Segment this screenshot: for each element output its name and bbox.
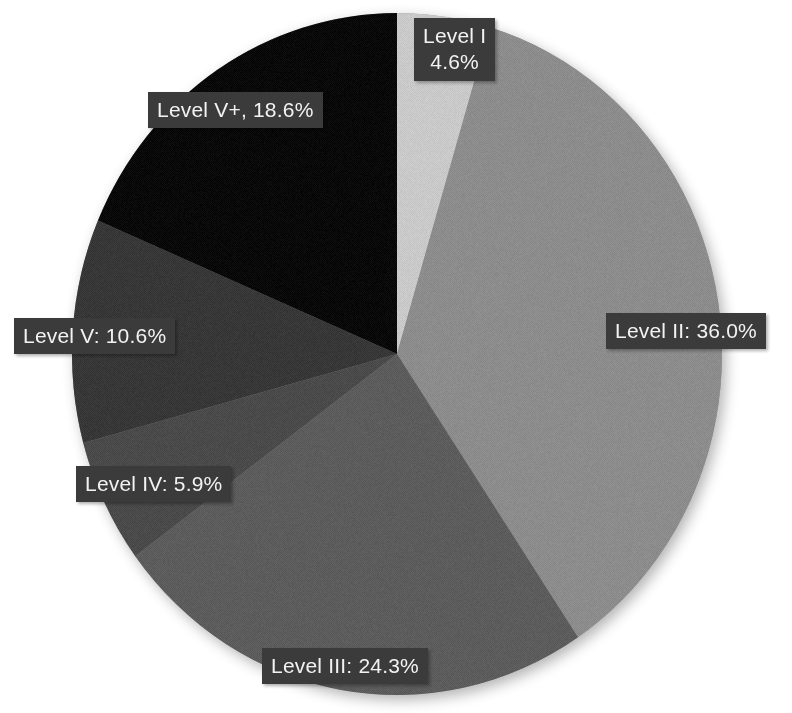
pie-slice-label-level-v: Level V+, 18.6%: [148, 92, 323, 128]
pie-slice-label-level-i: Level I 4.6%: [414, 18, 495, 81]
pie-slice-label-level-v: Level V: 10.6%: [14, 318, 175, 354]
pie-chart-canvas: [0, 0, 792, 713]
pie-chart: Level I 4.6%Level II: 36.0%Level III: 24…: [0, 0, 792, 713]
pie-slice-label-level-iv: Level IV: 5.9%: [76, 466, 231, 502]
pie-slice-label-level-ii: Level II: 36.0%: [606, 313, 766, 349]
pie-slice-label-level-iii: Level III: 24.3%: [262, 648, 428, 684]
